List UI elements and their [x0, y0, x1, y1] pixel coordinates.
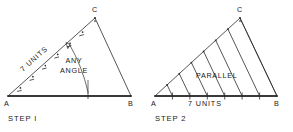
step2-label-c: C: [237, 5, 243, 14]
step2-vertex-c-dot: [239, 17, 241, 19]
step1-label-c: C: [92, 5, 98, 14]
step1-units-label: 7 UNITS: [18, 44, 49, 73]
step-2-panel: PARALLEL 7 UNITS A B C STEP 2: [151, 5, 279, 123]
step1-vertex-a-dot: [7, 95, 9, 97]
step1-unit-ticks: [17, 20, 96, 91]
step1-label-b: B: [128, 99, 133, 108]
step2-vertex-a-dot: [154, 95, 156, 97]
construction-diagram: 7 UNITS ANY ANGLE A B C STEP I: [0, 0, 293, 132]
step2-label-b: B: [274, 99, 279, 108]
step1-vertex-c-dot: [94, 17, 96, 19]
step1-side-cb: [95, 18, 131, 96]
step1-any-angle-line2: ANGLE: [60, 66, 88, 75]
step-1-panel: 7 UNITS ANY ANGLE A B C STEP I: [4, 5, 133, 123]
step2-caption: STEP 2: [155, 114, 186, 123]
step2-ray-ac: [155, 18, 240, 96]
step2-parallel-lines: [167, 18, 277, 96]
step1-label-a: A: [4, 99, 9, 108]
step2-parallel-label: PARALLEL: [196, 71, 237, 80]
step1-vertex-b-dot: [130, 95, 132, 97]
step1-any-angle-line1: ANY: [66, 56, 83, 65]
geometry-figure: 7 UNITS ANY ANGLE A B C STEP I: [0, 0, 293, 132]
step2-vertex-b-dot: [276, 95, 278, 97]
step1-caption: STEP I: [8, 114, 37, 123]
step2-units-label: 7 UNITS: [188, 99, 222, 108]
step2-label-a: A: [151, 99, 156, 108]
